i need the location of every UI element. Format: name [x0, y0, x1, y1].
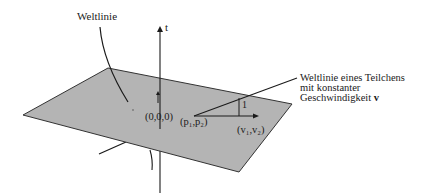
- velocity-symbol: v: [374, 92, 379, 103]
- hidden-axis-stub: [99, 142, 126, 154]
- callout-line-3: Geschwindigkeit v: [300, 93, 405, 103]
- unit-label: 1: [242, 99, 247, 110]
- origin-label: (0,0,0): [145, 111, 173, 123]
- callout-line-3-text: Geschwindigkeit: [300, 92, 374, 103]
- worldline-label: Weltlinie: [77, 10, 117, 22]
- velocity-label: (v₁,v₂): [237, 124, 265, 136]
- particle-worldline-callout: Weltlinie eines Teilchens mit konstanter…: [300, 73, 405, 103]
- worldline-lower: [150, 150, 152, 170]
- time-axis-label: t: [165, 21, 168, 33]
- worldline-point: [132, 109, 134, 111]
- position-label: (p₁,p₂): [180, 116, 208, 128]
- time-axis-arrowhead-icon: [157, 26, 163, 32]
